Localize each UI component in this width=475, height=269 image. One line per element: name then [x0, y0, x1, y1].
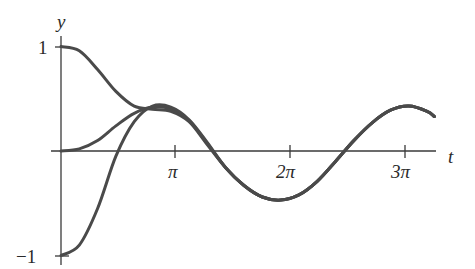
y-tick-label-neg1: −1 [16, 246, 36, 267]
solution-curve-3 [61, 105, 434, 256]
x-tick-label-2pi: 2π [276, 161, 296, 182]
x-tick-label-pi: π [168, 161, 178, 182]
x-axis-label: t [448, 146, 454, 167]
x-tick-label-3pi: 3π [390, 161, 411, 182]
y-tick-label-1: 1 [38, 37, 48, 58]
y-axis-label: y [55, 11, 66, 32]
chart-canvas: y 1 −1 π 2π 3π t [0, 0, 475, 269]
